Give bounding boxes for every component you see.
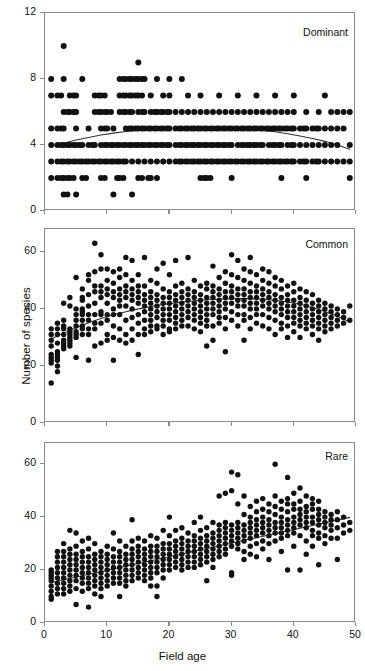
data-point [223, 520, 228, 525]
data-point [229, 318, 234, 323]
data-point [92, 320, 97, 325]
data-point [235, 303, 240, 308]
data-point [297, 295, 302, 300]
y-tick-label: 12 [6, 5, 36, 17]
data-point [179, 546, 184, 551]
data-point [117, 303, 122, 308]
data-point [204, 578, 209, 583]
data-point [223, 530, 228, 535]
data-point [241, 533, 246, 538]
data-point [291, 303, 296, 308]
data-point [316, 109, 322, 115]
x-tick-mark [355, 422, 356, 426]
data-point [61, 43, 67, 49]
data-point [260, 292, 265, 297]
data-point [278, 175, 284, 181]
data-point [179, 318, 184, 323]
data-point [198, 315, 203, 320]
data-point [204, 559, 209, 564]
data-point [297, 335, 302, 340]
data-point [266, 269, 271, 274]
data-point [322, 142, 328, 148]
data-point [316, 506, 321, 511]
data-point [241, 528, 246, 533]
data-point [73, 586, 78, 591]
data-point [86, 303, 91, 308]
data-point [61, 581, 66, 586]
data-point [92, 567, 97, 572]
data-point [316, 512, 321, 517]
data-point [235, 536, 240, 541]
data-point [291, 501, 296, 506]
data-point [260, 496, 265, 501]
data-point [272, 275, 277, 280]
data-point [272, 525, 277, 530]
data-point [135, 159, 141, 165]
data-point [110, 126, 116, 132]
data-point [291, 281, 296, 286]
data-point [98, 266, 103, 271]
data-point [185, 292, 190, 297]
data-point [260, 286, 265, 291]
data-point [192, 306, 197, 311]
data-point [160, 300, 165, 305]
data-point [322, 533, 327, 538]
data-point [192, 278, 197, 283]
data-point [279, 499, 284, 504]
data-point [204, 306, 209, 311]
data-point [297, 300, 302, 305]
data-point [223, 536, 228, 541]
data-point [248, 551, 253, 556]
data-point [272, 93, 278, 99]
data-point [198, 329, 203, 334]
data-point [204, 295, 209, 300]
data-point [223, 295, 228, 300]
data-point [279, 326, 284, 331]
data-point [129, 557, 134, 562]
data-point [148, 565, 153, 570]
data-point [102, 175, 108, 181]
data-point [160, 295, 165, 300]
data-point [154, 76, 160, 82]
data-point [223, 306, 228, 311]
data-point [73, 323, 78, 328]
data-point [210, 306, 215, 311]
data-point [328, 320, 333, 325]
data-point [285, 522, 290, 527]
data-point [160, 557, 165, 562]
data-point [347, 159, 353, 165]
data-point [123, 295, 128, 300]
data-point [55, 332, 60, 337]
plot-area-common [44, 228, 355, 422]
data-point [316, 298, 321, 303]
data-point [98, 554, 103, 559]
data-point [48, 159, 54, 165]
data-point [297, 318, 302, 323]
data-point [80, 312, 85, 317]
data-point [148, 533, 153, 538]
x-tick-mark [231, 622, 232, 626]
data-point [192, 312, 197, 317]
data-point [260, 546, 265, 551]
data-point [347, 109, 353, 115]
data-point [279, 312, 284, 317]
data-point [229, 252, 234, 257]
data-point [278, 142, 284, 148]
data-point [67, 562, 72, 567]
data-point [129, 292, 134, 297]
data-point [154, 583, 159, 588]
data-point [310, 501, 315, 506]
data-point [129, 306, 134, 311]
data-point [67, 551, 72, 556]
data-point [328, 522, 333, 527]
data-point [129, 326, 134, 331]
data-point [111, 295, 116, 300]
data-point [335, 536, 340, 541]
data-point [92, 300, 97, 305]
data-point [136, 272, 141, 277]
data-point [335, 509, 340, 514]
data-point [316, 303, 321, 308]
data-point [154, 544, 159, 549]
data-point [73, 551, 78, 556]
data-point [285, 475, 290, 480]
